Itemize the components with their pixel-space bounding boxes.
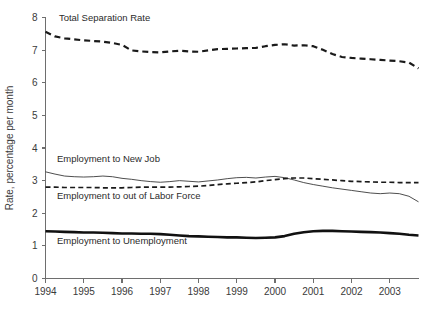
series-label-3: Employment to Unemployment xyxy=(57,235,187,246)
y-tick-label: 0 xyxy=(32,273,38,284)
chart-container: 012345678 199419951996199719981999200020… xyxy=(0,0,425,309)
y-axis: 012345678 xyxy=(32,12,46,284)
x-tick-label: 1994 xyxy=(34,286,57,297)
y-tick-label: 8 xyxy=(32,12,38,23)
x-tick-label: 2001 xyxy=(302,286,325,297)
y-axis-title: Rate, percentage per month xyxy=(4,86,15,211)
x-tick-label: 1995 xyxy=(73,286,96,297)
x-tick-label: 1996 xyxy=(111,286,134,297)
series-line-2 xyxy=(46,178,419,188)
series-label-0: Total Separation Rate xyxy=(59,12,150,23)
x-tick-label: 1998 xyxy=(187,286,210,297)
series-lines xyxy=(46,32,419,238)
y-tick-label: 3 xyxy=(32,175,38,186)
y-tick-label: 4 xyxy=(32,143,38,154)
x-tick-label: 1997 xyxy=(149,286,172,297)
series-labels: Total Separation RateEmployment to New J… xyxy=(57,12,201,246)
line-chart: 012345678 199419951996199719981999200020… xyxy=(0,0,425,309)
y-tick-label: 1 xyxy=(32,240,38,251)
x-tick-label: 1999 xyxy=(226,286,249,297)
y-tick-label: 5 xyxy=(32,110,38,121)
series-label-2: Employment to out of Labor Force xyxy=(57,190,201,201)
series-label-1: Employment to New Job xyxy=(57,153,160,164)
x-tick-label: 2003 xyxy=(379,286,402,297)
x-tick-label: 2002 xyxy=(340,286,363,297)
y-tick-label: 2 xyxy=(32,208,38,219)
y-tick-label: 7 xyxy=(32,45,38,56)
y-axis-title-text: Rate, percentage per month xyxy=(4,86,15,211)
y-tick-label: 6 xyxy=(32,77,38,88)
series-line-0 xyxy=(46,32,419,69)
x-axis: 1994199519961997199819992000200120022003 xyxy=(34,279,418,297)
x-tick-label: 2000 xyxy=(264,286,287,297)
